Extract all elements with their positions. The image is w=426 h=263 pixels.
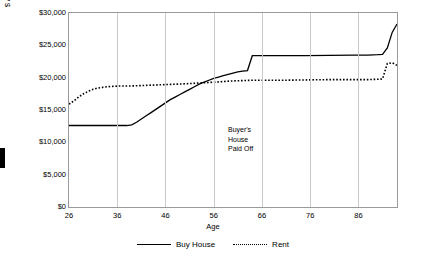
legend-label-buy-house: Buy House <box>176 240 215 249</box>
gridline-vertical <box>117 13 118 207</box>
x-tick-label: 36 <box>102 211 132 220</box>
gridline-vertical <box>214 13 215 207</box>
gridline-vertical <box>262 13 263 207</box>
gridline-vertical <box>310 13 311 207</box>
x-tick-label: 66 <box>247 211 277 220</box>
x-tick-label: 26 <box>54 211 84 220</box>
gridline-vertical <box>165 13 166 207</box>
annotation-line: House <box>228 135 253 145</box>
legend-swatch-solid-icon <box>137 244 171 245</box>
legend-swatch-dotted-icon <box>233 244 267 245</box>
x-tick-label: 46 <box>150 211 180 220</box>
annotation-line: Buyer's <box>228 125 253 135</box>
x-tick-label: 86 <box>343 211 373 220</box>
legend-item-rent: Rent <box>233 240 289 249</box>
annotation-house-paid-off: Buyer'sHousePaid Off <box>228 125 253 154</box>
x-axis-title: Age <box>0 222 426 231</box>
y-tick-label: $25,000 <box>8 41 66 49</box>
x-tick-label: 56 <box>199 211 229 220</box>
x-tick-label: 76 <box>295 211 325 220</box>
y-tick-label: $10,000 <box>8 138 66 146</box>
gridline-vertical <box>358 13 359 207</box>
y-tick-label: $30,000 <box>8 9 66 17</box>
plot-area <box>68 12 398 208</box>
legend-label-rent: Rent <box>272 240 289 249</box>
y-tick-label: $15,000 <box>8 106 66 114</box>
chart-container: $ Available for Annual Consumption $0$5,… <box>0 0 426 263</box>
legend-item-buy-house: Buy House <box>137 240 215 249</box>
annotation-line: Paid Off <box>228 144 253 154</box>
y-tick-label: $20,000 <box>8 74 66 82</box>
y-tick-label: $5,000 <box>8 171 66 179</box>
y-tick-label: $0 <box>8 203 66 211</box>
chart-legend: Buy House Rent <box>0 240 426 249</box>
